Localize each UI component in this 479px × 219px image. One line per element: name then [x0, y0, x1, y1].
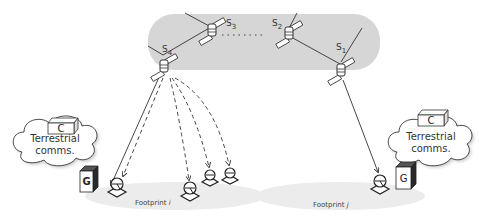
user-terminal[interactable]: [222, 168, 238, 184]
control-center-left[interactable]: C: [48, 118, 78, 134]
footprint-i-label: Footprint i: [135, 199, 171, 207]
cloud-left-line1: Terrestrial: [29, 133, 79, 144]
satellite-network-diagram: S3 S2 S4 S1 Terrestrial comms. C G Terre…: [0, 0, 479, 219]
user-terminal[interactable]: [202, 170, 218, 186]
beam-links: [111, 75, 378, 185]
footprint-j-label: Footprint j: [313, 201, 349, 209]
cloud-left-line2: comms.: [35, 145, 75, 156]
cloud-right-line1: Terrestrial: [405, 131, 455, 142]
cloud-right-line2: comms.: [411, 143, 451, 154]
control-center-left-label: C: [58, 123, 65, 134]
gateway-left-label: G: [82, 176, 90, 187]
control-center-right-label: C: [428, 115, 435, 126]
gateway-left[interactable]: G: [80, 166, 98, 192]
gateway-right[interactable]: G: [396, 162, 416, 189]
control-center-right[interactable]: C: [418, 110, 448, 126]
gateway-right-label: G: [400, 173, 408, 184]
